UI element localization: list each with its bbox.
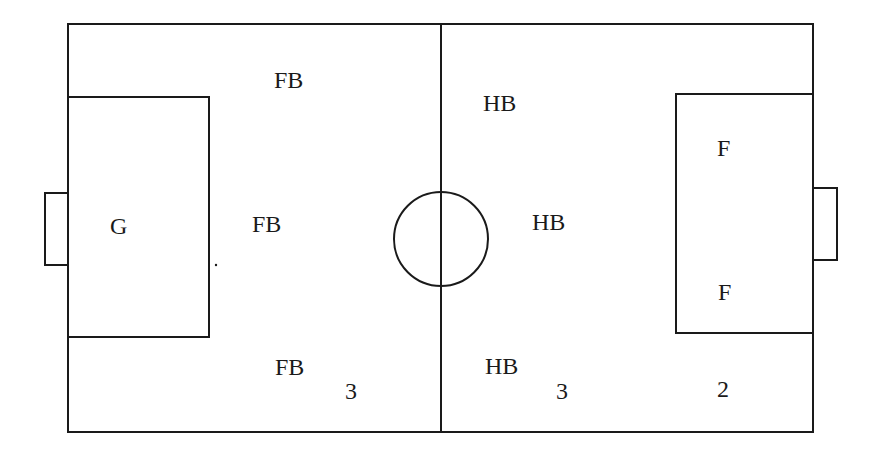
- forward-count: 2: [717, 377, 729, 401]
- left-penalty-box: [68, 97, 209, 337]
- position-fullback-bottom: FB: [275, 355, 304, 379]
- position-forward-top: F: [717, 136, 730, 160]
- position-halfback-bottom: HB: [485, 354, 518, 378]
- soccer-field: [0, 0, 877, 455]
- right-penalty-box: [676, 94, 813, 333]
- halfback-count: 3: [556, 379, 568, 403]
- right-goal: [813, 188, 837, 260]
- position-forward-bottom: F: [718, 280, 731, 304]
- position-fullback-middle: FB: [252, 212, 281, 236]
- fullback-count: 3: [345, 379, 357, 403]
- left-goal: [45, 193, 68, 265]
- position-halfback-top: HB: [483, 91, 516, 115]
- stray-dot: [215, 264, 217, 266]
- position-fullback-top: FB: [274, 68, 303, 92]
- position-halfback-middle: HB: [532, 210, 565, 234]
- position-goalkeeper: G: [110, 214, 127, 238]
